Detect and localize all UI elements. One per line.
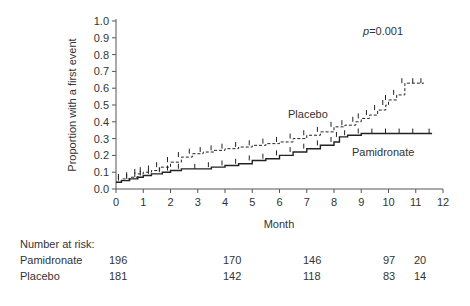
label-placebo: Placebo xyxy=(288,108,328,120)
x-tick-label: 1 xyxy=(140,196,146,208)
risk-value: 97 xyxy=(383,254,395,266)
risk-header: Number at risk: xyxy=(20,238,95,250)
x-tick-label: 12 xyxy=(437,196,449,208)
y-tick-label: 0.9 xyxy=(94,32,109,44)
risk-value: 196 xyxy=(109,254,127,266)
x-tick-label: 5 xyxy=(249,196,255,208)
risk-value: 146 xyxy=(303,254,321,266)
x-tick-label: 9 xyxy=(358,196,364,208)
x-tick-label: 4 xyxy=(222,196,228,208)
x-tick-label: 3 xyxy=(195,196,201,208)
risk-value: 181 xyxy=(109,270,127,282)
x-tick-label: 8 xyxy=(331,196,337,208)
placebo-curve xyxy=(116,83,424,182)
y-tick-label: 0.0 xyxy=(94,183,109,195)
y-axis-label: Proportion with a first event xyxy=(66,38,78,171)
y-tick-label: 0.1 xyxy=(94,166,109,178)
x-tick-label: 0 xyxy=(113,196,119,208)
risk-value: 142 xyxy=(223,270,241,282)
risk-value: 20 xyxy=(414,254,426,266)
risk-value: 83 xyxy=(383,270,395,282)
y-tick-label: 0.7 xyxy=(94,65,109,77)
y-tick-label: 0.2 xyxy=(94,149,109,161)
p-value: p=0.001 xyxy=(362,25,403,37)
x-tick-label: 6 xyxy=(276,196,282,208)
x-axis-label: Month xyxy=(264,218,295,230)
x-tick-label: 11 xyxy=(410,196,421,208)
x-tick-label: 10 xyxy=(382,196,394,208)
risk-row-label: Pamidronate xyxy=(20,254,82,266)
risk-value: 118 xyxy=(303,270,321,282)
y-tick-label: 0.5 xyxy=(94,99,109,111)
risk-value: 170 xyxy=(223,254,241,266)
y-tick-label: 1.0 xyxy=(94,15,109,27)
y-tick-label: 0.6 xyxy=(94,82,109,94)
risk-row-label: Placebo xyxy=(20,270,60,282)
x-tick-label: 2 xyxy=(167,196,173,208)
label-pamidronate: Pamidronate xyxy=(352,146,414,158)
risk-value: 14 xyxy=(414,270,426,282)
y-tick-label: 0.4 xyxy=(94,116,109,128)
y-tick-label: 0.3 xyxy=(94,133,109,145)
y-tick-label: 0.8 xyxy=(94,49,109,61)
x-tick-label: 7 xyxy=(304,196,310,208)
